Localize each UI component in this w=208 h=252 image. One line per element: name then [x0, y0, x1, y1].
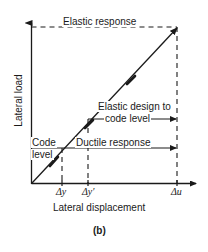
- x-axis-label: Lateral displacement: [52, 202, 146, 213]
- annotation-code-line2: level: [31, 149, 54, 160]
- annotation-elastic-design-line1: Elastic design to: [97, 101, 172, 112]
- figure-caption: (b): [92, 225, 107, 236]
- x-tick-label-delta-u: Δu: [170, 186, 183, 197]
- x-tick-label-delta-y-prime: Δy′: [81, 186, 96, 197]
- annotation-elastic-design-line2: code level: [104, 113, 151, 124]
- figure-container: Elastic response Elastic design to code …: [0, 0, 208, 252]
- y-axis-label: Lateral load: [13, 62, 24, 140]
- plot-canvas: [0, 0, 208, 252]
- annotation-elastic-response: Elastic response: [62, 16, 137, 27]
- annotation-ductile-response: Ductile response: [75, 137, 151, 148]
- annotation-code-line1: Code: [31, 137, 57, 148]
- x-tick-label-delta-y: Δy: [55, 186, 67, 197]
